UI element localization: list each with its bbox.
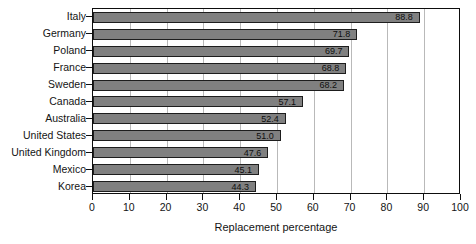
x-axis-tick-label: 50 <box>270 202 282 213</box>
x-axis-tick-label: 70 <box>344 202 356 213</box>
y-axis-tick-label: Mexico <box>53 163 86 174</box>
bar-slot: 45.1 <box>93 161 459 178</box>
bar-value-label: 51.0 <box>256 131 274 140</box>
y-axis-tick-label: Australia <box>45 113 86 124</box>
bar-value-label: 45.1 <box>234 165 252 174</box>
y-axis-tick-label: Germany <box>43 28 86 39</box>
x-axis-tick <box>386 194 387 200</box>
bar-slot: 68.2 <box>93 77 459 94</box>
y-axis-tick-label: Korea <box>58 180 86 191</box>
bars-layer: 88.871.869.768.868.257.152.451.047.645.1… <box>93 9 459 193</box>
bar-slot: 47.6 <box>93 144 459 161</box>
bar-value-label: 44.3 <box>231 182 249 191</box>
bar[interactable]: 69.7 <box>93 46 349 57</box>
y-axis-tick-label: Canada <box>49 96 86 107</box>
x-axis-tick <box>460 194 461 200</box>
bar[interactable]: 52.4 <box>93 113 286 124</box>
bar[interactable]: 44.3 <box>93 181 256 192</box>
x-axis-tick-label: 60 <box>307 202 319 213</box>
x-axis-tick-label: 90 <box>417 202 429 213</box>
x-axis-tick-label: 80 <box>381 202 393 213</box>
bar-value-label: 68.2 <box>319 81 337 90</box>
bar[interactable]: 57.1 <box>93 96 303 107</box>
x-axis-tick <box>423 194 424 200</box>
bar-value-label: 71.8 <box>333 30 351 39</box>
bar[interactable]: 47.6 <box>93 147 268 158</box>
bar-value-label: 69.7 <box>325 47 343 56</box>
bar-value-label: 68.8 <box>322 64 340 73</box>
x-axis-tick <box>313 194 314 200</box>
bar[interactable]: 88.8 <box>93 12 420 23</box>
y-axis-tick-label: Italy <box>67 11 86 22</box>
bar[interactable]: 71.8 <box>93 29 357 40</box>
x-axis-tick-label: 40 <box>233 202 245 213</box>
bar-slot: 57.1 <box>93 94 459 111</box>
x-axis-tick <box>129 194 130 200</box>
x-axis-tick <box>92 194 93 200</box>
bar-value-label: 47.6 <box>244 148 262 157</box>
x-axis-tick-label: 100 <box>451 202 469 213</box>
bar-slot: 68.8 <box>93 60 459 77</box>
bar-slot: 88.8 <box>93 9 459 26</box>
x-axis-tick-label: 0 <box>89 202 95 213</box>
x-axis-title: Replacement percentage <box>92 221 460 233</box>
bar-value-label: 57.1 <box>279 97 297 106</box>
bar-slot: 71.8 <box>93 26 459 43</box>
bar[interactable]: 51.0 <box>93 130 281 141</box>
bar-value-label: 52.4 <box>261 114 279 123</box>
y-axis-tick-label: United Kingdom <box>11 146 86 157</box>
y-axis-tick-label: Sweden <box>48 79 86 90</box>
y-axis-tick-label: United States <box>23 130 86 141</box>
y-axis: ItalyGermanyPolandFranceSwedenCanadaAust… <box>0 8 86 194</box>
bar[interactable]: 68.8 <box>93 63 346 74</box>
bar-slot: 69.7 <box>93 43 459 60</box>
y-axis-tick-label: France <box>53 62 86 73</box>
bar[interactable]: 68.2 <box>93 80 344 91</box>
x-axis-tick <box>202 194 203 200</box>
bar-value-label: 88.8 <box>395 13 413 22</box>
x-axis-tick <box>166 194 167 200</box>
bar-slot: 44.3 <box>93 178 459 195</box>
bar-slot: 51.0 <box>93 127 459 144</box>
bar[interactable]: 45.1 <box>93 164 259 175</box>
x-axis-tick-label: 20 <box>160 202 172 213</box>
x-axis-tick <box>239 194 240 200</box>
plot-area: 88.871.869.768.868.257.152.451.047.645.1… <box>92 8 460 194</box>
bar-chart: ItalyGermanyPolandFranceSwedenCanadaAust… <box>0 0 476 244</box>
y-axis-tick-label: Poland <box>53 45 86 56</box>
x-axis-tick <box>276 194 277 200</box>
x-axis-tick <box>350 194 351 200</box>
x-axis-tick-label: 30 <box>197 202 209 213</box>
x-axis-tick-label: 10 <box>123 202 135 213</box>
bar-slot: 52.4 <box>93 110 459 127</box>
